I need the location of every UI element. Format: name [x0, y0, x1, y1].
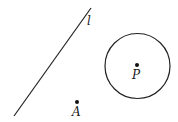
point-p-label: P — [132, 69, 140, 81]
point-a-label: A — [72, 106, 81, 118]
point-p-dot — [135, 63, 139, 67]
line-l — [14, 8, 91, 116]
diagram-canvas: l P A — [0, 0, 178, 122]
line-label: l — [87, 15, 91, 27]
point-a-dot — [75, 100, 79, 104]
